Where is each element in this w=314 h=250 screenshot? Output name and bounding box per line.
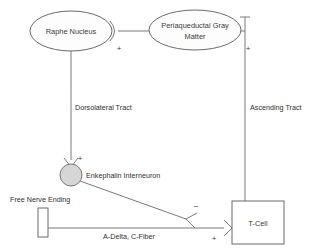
diagram-canvas: Raphe Nucleus Periaqueductal Gray Matter… — [0, 0, 314, 250]
node-free-nerve-ending[interactable] — [38, 208, 48, 237]
node-periaqueductal-gray-matter-label-line2: Matter — [185, 32, 206, 41]
edge-interneuron-to-tcell-line — [80, 181, 186, 219]
edge-label-dorsolateral-tract: Dorsolateral Tract — [75, 103, 132, 112]
pain-pathway-diagram: Raphe Nucleus Periaqueductal Gray Matter… — [0, 0, 314, 250]
node-free-nerve-ending-label: Free Nerve Ending — [10, 195, 70, 204]
synapse-terminal-inhibitory-lower — [186, 219, 195, 228]
node-enkephalin-interneuron-label: Enkephalin Interneuron — [86, 171, 160, 180]
node-enkephalin-interneuron[interactable] — [60, 164, 82, 186]
synapse-terminal-inhibitory-upper — [186, 213, 197, 219]
synapse-terminal-tcell-excitatory — [224, 220, 232, 236]
sign-tcell-excitatory: + — [212, 234, 217, 243]
edge-label-ascending-tract: Ascending Tract — [250, 103, 302, 112]
node-t-cell-label: T-Cell — [248, 219, 268, 228]
node-periaqueductal-gray-matter[interactable] — [149, 10, 241, 50]
edge-label-a-delta-c-fiber: A-Delta, C-Fiber — [103, 232, 156, 241]
sign-pag-excitatory: + — [246, 44, 251, 53]
sign-interneuron-excitatory: + — [78, 154, 83, 163]
node-periaqueductal-gray-matter-label-line1: Periaqueductal Gray — [161, 21, 229, 30]
sign-tcell-inhibitory: − — [194, 202, 199, 211]
sign-raphe-excitatory: + — [117, 44, 122, 53]
node-raphe-nucleus-label: Raphe Nucleus — [46, 27, 97, 36]
